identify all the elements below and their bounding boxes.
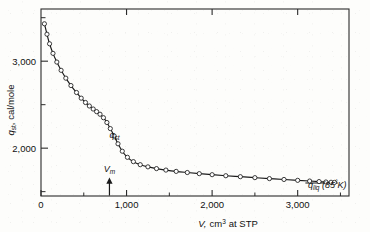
data-point-marker xyxy=(197,172,201,176)
data-point-marker xyxy=(154,167,158,171)
data-point-marker xyxy=(125,155,129,159)
data-point-markers xyxy=(42,22,336,185)
data-point-marker xyxy=(55,60,59,64)
q-st-subscript: st xyxy=(114,134,120,141)
q-liq-paren-close: ) xyxy=(343,180,347,190)
x-tick-label: 3,000 xyxy=(286,199,310,210)
data-point-marker xyxy=(174,169,178,173)
data-point-marker xyxy=(146,165,150,169)
q-st-curve-label: qst xyxy=(109,130,120,141)
data-point-marker xyxy=(101,116,105,120)
y-axis-unit: , cal/mole xyxy=(5,84,16,125)
data-point-marker xyxy=(282,177,286,181)
y-axis-title: qst, cal/mole xyxy=(5,84,17,135)
data-point-marker xyxy=(105,120,109,124)
data-point-marker xyxy=(59,68,63,72)
y-axis-ticks xyxy=(41,18,48,192)
data-point-marker xyxy=(69,83,73,87)
data-point-marker xyxy=(253,176,257,180)
data-point-marker xyxy=(296,178,300,182)
data-point-marker xyxy=(79,96,83,100)
data-point-marker xyxy=(131,160,135,164)
data-point-marker xyxy=(267,177,271,181)
x-axis-variable: V, xyxy=(198,218,206,229)
data-point-marker xyxy=(116,142,120,146)
data-point-marker xyxy=(47,42,51,46)
data-point-marker xyxy=(120,149,124,153)
data-point-marker xyxy=(164,168,168,172)
scientific-figure: 01,0002,0003,000 2,0003,000 Vm qst qliq … xyxy=(0,0,370,232)
y-tick-label: 3,000 xyxy=(12,56,36,67)
data-point-marker xyxy=(138,163,142,167)
data-point-marker xyxy=(45,32,49,36)
figure-page: 01,0002,0003,000 2,0003,000 Vm qst qliq … xyxy=(0,0,370,232)
x-tick-label: 2,000 xyxy=(200,199,224,210)
x-tick-label: 0 xyxy=(38,199,43,210)
x-axis-unit-exponent: 3 xyxy=(222,218,226,225)
vm-subscript: m xyxy=(110,168,116,175)
x-tick-label: 1,000 xyxy=(115,199,139,210)
data-point-marker xyxy=(87,104,91,108)
vm-arrow-annotation: Vm xyxy=(104,164,116,196)
data-point-marker xyxy=(98,112,102,116)
x-axis-unit-tail: at STP xyxy=(229,218,258,229)
data-point-marker xyxy=(238,175,242,179)
data-point-marker xyxy=(224,174,228,178)
vm-arrow-head xyxy=(106,177,112,183)
data-point-marker xyxy=(185,170,189,174)
data-point-marker xyxy=(83,100,87,104)
data-point-marker xyxy=(51,51,55,55)
data-point-marker xyxy=(210,173,214,177)
data-point-marker xyxy=(74,90,78,94)
y-tick-label: 2,000 xyxy=(12,143,36,154)
vm-label: Vm xyxy=(104,164,116,175)
data-point-marker xyxy=(42,22,46,26)
x-axis-tick-labels: 01,0002,0003,000 xyxy=(38,199,309,210)
data-point-marker xyxy=(64,76,68,80)
x-axis-title: V,cm3at STP xyxy=(198,218,258,229)
x-axis-unit-base: cm xyxy=(209,218,222,229)
